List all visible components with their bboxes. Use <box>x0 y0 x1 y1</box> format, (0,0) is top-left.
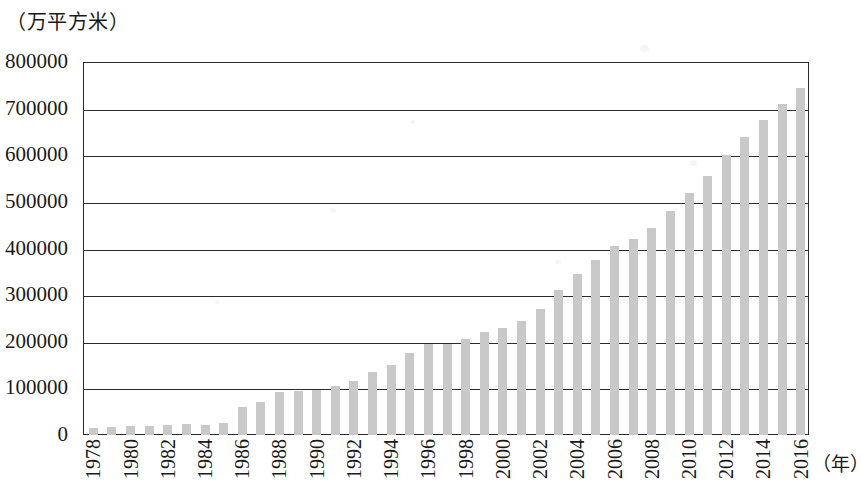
x-tick-label-1994: 1994 <box>381 439 401 479</box>
y-tick-label: 700000 <box>0 98 68 119</box>
y-axis-unit-label: （万平方米） <box>6 6 129 35</box>
x-tick-label-1990: 1990 <box>307 439 327 479</box>
gridline-300000 <box>84 296 808 297</box>
x-tick-label-1992: 1992 <box>344 439 364 479</box>
gridline-400000 <box>84 250 808 251</box>
x-tick-label-2004: 2004 <box>567 439 587 479</box>
x-tick-label-1978: 1978 <box>83 439 103 479</box>
gridline-700000 <box>84 110 808 111</box>
scan-artifact <box>555 260 561 264</box>
x-tick-label-2014: 2014 <box>753 439 773 479</box>
x-tick-label-2008: 2008 <box>642 439 662 479</box>
x-tick-label-1982: 1982 <box>158 439 178 479</box>
x-tick-label-2012: 2012 <box>716 439 736 479</box>
x-axis-unit-label: （年） <box>812 449 861 476</box>
gridline-200000 <box>84 343 808 344</box>
x-tick-label-2006: 2006 <box>605 439 625 479</box>
gridline-100000 <box>84 389 808 390</box>
y-tick-label: 0 <box>0 424 68 445</box>
x-tick-label-2010: 2010 <box>679 439 699 479</box>
y-tick-label: 800000 <box>0 51 68 72</box>
x-tick-label-1986: 1986 <box>232 439 252 479</box>
bar-chart: （万平方米） 800000700000600000500000400000300… <box>0 0 861 495</box>
x-tick-label-1998: 1998 <box>456 439 476 479</box>
y-tick-label: 500000 <box>0 191 68 212</box>
x-tick-label-1996: 1996 <box>418 439 438 479</box>
x-axis-tick-labels: 1978198019821984198619881990199219941996… <box>83 437 809 495</box>
y-tick-label: 100000 <box>0 377 68 398</box>
gridline-500000 <box>84 203 808 204</box>
x-tick-label-2016: 2016 <box>791 439 811 479</box>
x-tick-label-2002: 2002 <box>530 439 550 479</box>
scan-artifact <box>330 208 336 213</box>
y-tick-label: 400000 <box>0 238 68 259</box>
y-tick-label: 600000 <box>0 144 68 165</box>
scan-artifact <box>640 45 649 52</box>
plot-area <box>83 62 809 435</box>
y-tick-label: 300000 <box>0 284 68 305</box>
scan-artifact <box>215 300 220 304</box>
x-tick-label-1984: 1984 <box>195 439 215 479</box>
x-tick-label-2000: 2000 <box>493 439 513 479</box>
scan-artifact <box>410 120 415 124</box>
x-tick-label-1980: 1980 <box>121 439 141 479</box>
scan-artifact <box>690 160 697 166</box>
y-tick-label: 200000 <box>0 331 68 352</box>
x-tick-label-1988: 1988 <box>269 439 289 479</box>
gridline-600000 <box>84 156 808 157</box>
